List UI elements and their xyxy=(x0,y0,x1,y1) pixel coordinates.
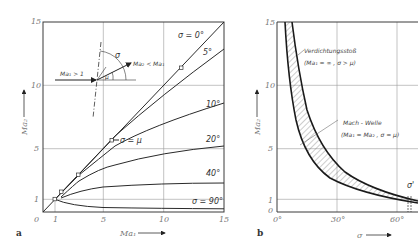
mu-arc xyxy=(112,72,113,80)
svg-text:10: 10 xyxy=(31,81,41,90)
svg-text:(Ma₁ = ∞ , σ > μ): (Ma₁ = ∞ , σ > μ) xyxy=(304,59,356,67)
panel-a-letter: a xyxy=(16,228,22,238)
inset-ma2-label: Ma₂ < Ma₁ xyxy=(133,60,165,67)
svg-text:0: 0 xyxy=(268,206,273,215)
inset-ma1-label: Ma₁ > 1 xyxy=(60,70,84,77)
label-sigma-20: 20° xyxy=(206,135,220,144)
shock-annotation: Verdichtungsstoß (Ma₁ = ∞ , σ > μ) xyxy=(298,47,357,67)
panel-a-y-label: Ma₂ xyxy=(20,90,29,136)
svg-text:15: 15 xyxy=(31,17,41,26)
inset-mu-label: μ xyxy=(104,73,109,81)
label-sigma-10: 10° xyxy=(206,100,220,109)
panel-b-x-label: σ xyxy=(357,231,363,240)
svg-text:σ': σ' xyxy=(407,181,414,190)
inset-shock-diagram: Ma₁ > 1 Ma₂ < Ma₁ σ μ xyxy=(55,42,165,118)
svg-text:(Ma₁ = Ma₂ , σ = μ): (Ma₁ = Ma₂ , σ = μ) xyxy=(341,131,399,139)
svg-text:Ma₂: Ma₂ xyxy=(20,119,29,136)
curve-sigma-20 xyxy=(61,146,224,197)
svg-text:60°: 60° xyxy=(390,215,404,224)
svg-text:1: 1 xyxy=(53,215,58,224)
panel-b-y-label: Ma₂ xyxy=(253,90,262,136)
label-sigma-90: σ = 90° xyxy=(192,197,223,206)
panel-a-chart: σ = 0° 5° 10° 20° 40° σ = 90° σ = μ Ma₁ … xyxy=(16,17,229,238)
panel-a-y-ticks: 15 10 5 1 xyxy=(31,17,41,204)
label-sigma-40: 40° xyxy=(206,169,220,178)
svg-text:30°: 30° xyxy=(331,215,345,224)
svg-text:1: 1 xyxy=(34,195,39,204)
label-sigma-mu: σ = μ xyxy=(120,136,142,145)
svg-text:10: 10 xyxy=(159,215,169,224)
svg-text:0°: 0° xyxy=(273,215,282,224)
svg-text:15: 15 xyxy=(219,215,229,224)
svg-text:Verdichtungsstoß: Verdichtungsstoß xyxy=(304,47,357,55)
panel-a-x-label: Ma₁ xyxy=(119,229,136,238)
sigma-prime-marker: σ' xyxy=(407,181,414,212)
svg-text:1: 1 xyxy=(268,196,273,205)
panel-b-chart: σ' Verdichtungsstoß (Ma₁ = ∞ , σ > μ) Ma… xyxy=(253,18,418,240)
panel-a-x-ticks: 0 1 5 10 15 xyxy=(34,215,229,224)
svg-text:5: 5 xyxy=(34,144,39,153)
svg-text:15: 15 xyxy=(265,18,275,27)
svg-text:Ma₂: Ma₂ xyxy=(253,119,262,136)
svg-text:5: 5 xyxy=(268,144,273,153)
panel-b-y-ticks: 15 10 5 1 0 xyxy=(265,18,275,215)
label-sigma-5: 5° xyxy=(203,48,212,57)
label-sigma-0: σ = 0° xyxy=(178,31,204,40)
figure: σ = 0° 5° 10° 20° 40° σ = 90° σ = μ Ma₁ … xyxy=(0,0,418,250)
inset-sigma-label: σ xyxy=(115,51,121,60)
curve-sigma-40 xyxy=(61,183,224,198)
panel-b-letter: b xyxy=(257,228,263,238)
svg-text:Mach - Welle: Mach - Welle xyxy=(343,119,382,126)
panel-b-x-ticks: 0° 30° 60° xyxy=(273,215,404,224)
svg-text:0: 0 xyxy=(34,215,39,224)
svg-text:5: 5 xyxy=(101,215,106,224)
svg-text:10: 10 xyxy=(265,81,275,90)
